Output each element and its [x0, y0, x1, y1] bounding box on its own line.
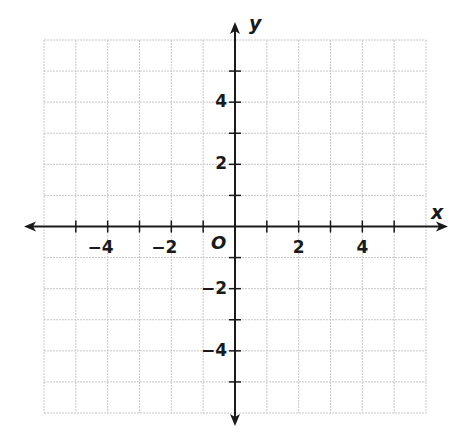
x-axis-label: x	[431, 203, 443, 222]
x-tick-label: −2	[151, 239, 177, 256]
coordinate-plane	[0, 0, 467, 436]
y-tick-label: −4	[201, 342, 227, 359]
y-tick-label: 2	[215, 155, 227, 172]
x-tick-label: −4	[88, 239, 114, 256]
x-tick-label: 4	[356, 239, 368, 256]
origin-label: O	[211, 234, 226, 252]
y-tick-label: 4	[215, 93, 227, 110]
axes	[24, 22, 448, 426]
y-tick-label: −2	[201, 280, 227, 297]
x-tick-label: 2	[293, 239, 305, 256]
y-axis-label: y	[249, 14, 261, 33]
